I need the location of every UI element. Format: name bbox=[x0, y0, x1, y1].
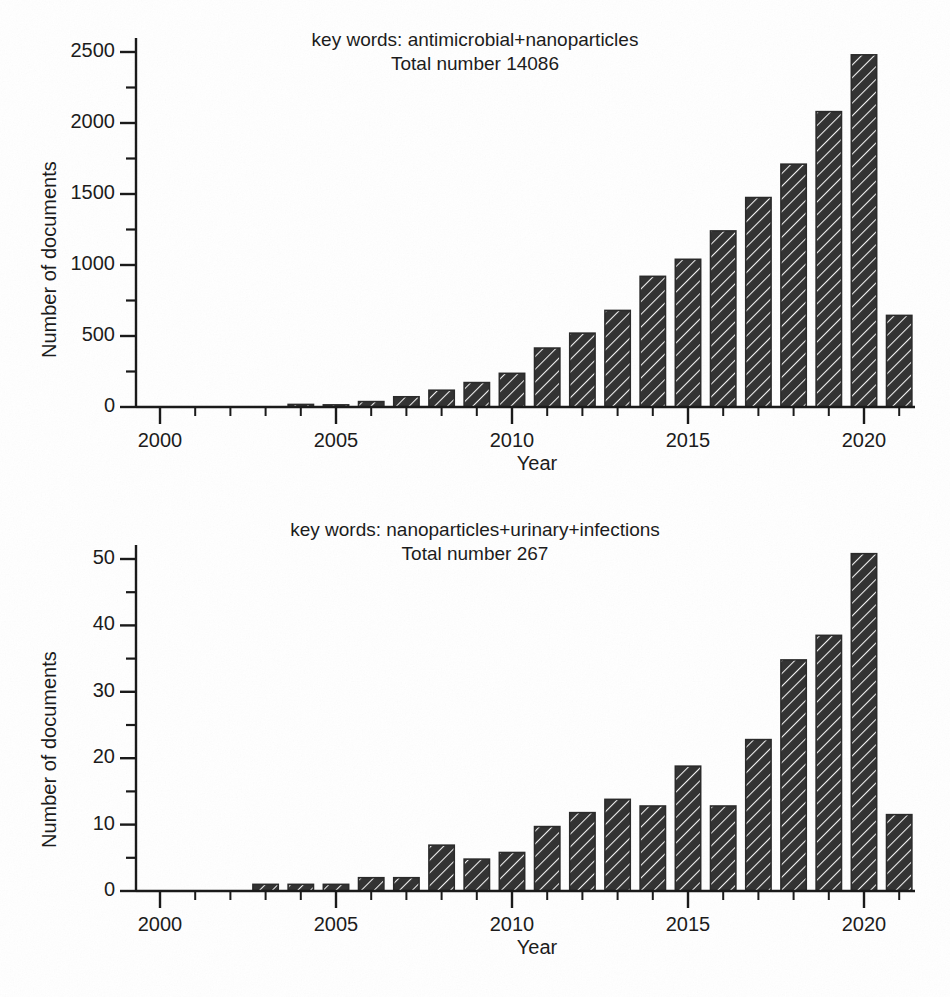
chart-top-subtitle: Total number 14086 bbox=[275, 52, 675, 76]
y-tick-label: 50 bbox=[20, 546, 115, 569]
bar-2006 bbox=[359, 878, 384, 891]
bar-2016 bbox=[711, 231, 736, 407]
bar-2021 bbox=[887, 315, 912, 407]
bar-2012 bbox=[570, 333, 595, 407]
bar-2017 bbox=[746, 740, 771, 891]
y-tick-label: 1000 bbox=[20, 252, 115, 275]
x-tick-label: 2005 bbox=[286, 429, 386, 452]
y-tick-label: 0 bbox=[20, 878, 115, 901]
bar-2010 bbox=[499, 852, 524, 891]
bar-2008 bbox=[429, 390, 454, 407]
bar-2009 bbox=[464, 859, 489, 891]
bar-2013 bbox=[605, 799, 630, 891]
x-tick-label: 2015 bbox=[638, 429, 738, 452]
chart-bottom-subtitle: Total number 267 bbox=[275, 542, 675, 566]
bar-2011 bbox=[535, 348, 560, 407]
x-tick-label: 2010 bbox=[462, 913, 562, 936]
bar-2019 bbox=[816, 112, 841, 407]
bar-2014 bbox=[640, 806, 665, 891]
x-tick-label: 2020 bbox=[814, 913, 914, 936]
chart-bottom-xaxis-title: Year bbox=[437, 936, 637, 959]
y-tick-label: 0 bbox=[20, 394, 115, 417]
chart-top-title: key words: antimicrobial+nanoparticles bbox=[275, 28, 675, 52]
y-tick-label: 2000 bbox=[20, 110, 115, 133]
bar-2009 bbox=[464, 383, 489, 407]
bar-2016 bbox=[711, 806, 736, 891]
bar-2013 bbox=[605, 310, 630, 407]
chart-top-annotation: key words: antimicrobial+nanoparticles T… bbox=[275, 28, 675, 76]
bar-2020 bbox=[851, 55, 876, 407]
y-tick-label: 30 bbox=[20, 679, 115, 702]
x-tick-label: 2020 bbox=[814, 429, 914, 452]
x-tick-label: 2015 bbox=[638, 913, 738, 936]
bar-2018 bbox=[781, 660, 806, 891]
chart-top-panel: key words: antimicrobial+nanoparticles T… bbox=[0, 0, 950, 500]
bar-2012 bbox=[570, 813, 595, 891]
bar-2007 bbox=[394, 878, 419, 891]
chart-bottom-panel: key words: nanoparticles+urinary+infecti… bbox=[0, 500, 950, 997]
y-tick-label: 10 bbox=[20, 812, 115, 835]
x-tick-label: 2000 bbox=[110, 913, 210, 936]
y-tick-label: 40 bbox=[20, 612, 115, 635]
chart-bottom-title: key words: nanoparticles+urinary+infecti… bbox=[275, 518, 675, 542]
bar-2015 bbox=[675, 766, 700, 891]
chart-top-xaxis-title: Year bbox=[437, 452, 637, 475]
bar-2008 bbox=[429, 845, 454, 891]
x-tick-label: 2005 bbox=[286, 913, 386, 936]
x-tick-label: 2000 bbox=[110, 429, 210, 452]
bar-2017 bbox=[746, 198, 771, 407]
figure-two-bar-charts: key words: antimicrobial+nanoparticles T… bbox=[0, 0, 950, 997]
bar-2014 bbox=[640, 276, 665, 407]
bar-2021 bbox=[887, 815, 912, 891]
bar-2019 bbox=[816, 635, 841, 891]
y-tick-label: 500 bbox=[20, 323, 115, 346]
bar-2020 bbox=[851, 554, 876, 891]
bar-2018 bbox=[781, 164, 806, 407]
bar-2010 bbox=[499, 373, 524, 407]
chart-bottom-annotation: key words: nanoparticles+urinary+infecti… bbox=[275, 518, 675, 566]
bar-2015 bbox=[675, 259, 700, 407]
y-tick-label: 2500 bbox=[20, 39, 115, 62]
bar-2011 bbox=[535, 827, 560, 891]
bar-2007 bbox=[394, 397, 419, 407]
y-tick-label: 20 bbox=[20, 745, 115, 768]
x-tick-label: 2010 bbox=[462, 429, 562, 452]
y-tick-label: 1500 bbox=[20, 181, 115, 204]
